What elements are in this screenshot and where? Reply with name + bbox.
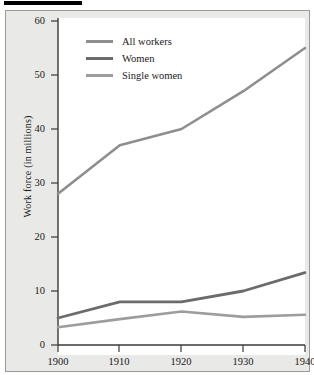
x-tick-label-1910: 1910 [98, 356, 140, 367]
x-tick-label-1920: 1920 [160, 356, 202, 367]
y-tick-label-20: 20 [19, 231, 45, 242]
y-tick-label-30: 30 [19, 177, 45, 188]
legend-label-single-women: Single women [122, 70, 182, 81]
legend-swatch-all-workers [86, 40, 113, 43]
y-axis-label: Work force (in millions) [22, 82, 33, 252]
legend-label-women: Women [122, 53, 154, 64]
legend-item-women: Women [86, 50, 182, 67]
y-axis-ticks [51, 21, 58, 345]
legend-label-all-workers: All workers [122, 36, 172, 47]
legend-item-single-women: Single women [86, 67, 182, 84]
chart-panel: Work force (in millions) 0 10 20 30 40 5… [5, 10, 310, 372]
legend-swatch-women [86, 57, 113, 60]
x-axis-ticks [58, 345, 305, 352]
series-line-single-women [58, 312, 305, 328]
legend-swatch-single-women [86, 74, 113, 77]
y-tick-label-10: 10 [19, 285, 45, 296]
y-tick-label-60: 60 [19, 15, 45, 26]
chart-figure: Work force (in millions) 0 10 20 30 40 5… [0, 0, 314, 375]
legend-item-all-workers: All workers [86, 33, 182, 50]
x-tick-label-1900: 1900 [37, 356, 79, 367]
y-tick-label-50: 50 [19, 69, 45, 80]
chart-legend: All workers Women Single women [86, 33, 182, 84]
y-tick-label-0: 0 [19, 339, 45, 350]
x-tick-label-1930: 1930 [222, 356, 264, 367]
x-tick-label-1940: 1940 [284, 356, 314, 367]
top-rule-divider [4, 1, 82, 5]
y-tick-label-40: 40 [19, 123, 45, 134]
